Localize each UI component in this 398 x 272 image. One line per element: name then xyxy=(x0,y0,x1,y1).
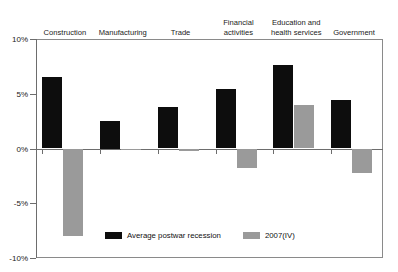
legend-label: Average postwar recession xyxy=(127,231,221,240)
y-axis-tick xyxy=(30,203,36,204)
bar xyxy=(179,149,199,151)
category-tick xyxy=(216,149,217,154)
legend-item-average-postwar-recession: Average postwar recession xyxy=(105,231,221,240)
bar xyxy=(42,77,62,148)
legend-swatch-gray xyxy=(243,232,260,239)
y-axis-tick-label: 10% xyxy=(12,35,28,44)
legend-swatch-black xyxy=(105,232,122,239)
y-axis-tick-label: -5% xyxy=(14,199,28,208)
bar xyxy=(100,121,120,148)
bar xyxy=(352,149,372,173)
bar xyxy=(331,100,351,148)
y-axis-tick xyxy=(30,94,36,95)
bar-chart: ConstructionManufacturingTradeFinancial … xyxy=(0,0,398,272)
bar xyxy=(158,107,178,149)
category-tick xyxy=(331,149,332,154)
y-axis-tick xyxy=(30,39,36,40)
legend-item-2007-iv: 2007(IV) xyxy=(243,231,295,240)
bar xyxy=(63,149,83,237)
bar xyxy=(273,65,293,148)
plot-area xyxy=(36,39,383,258)
legend-label: 2007(IV) xyxy=(265,231,295,240)
category-tick xyxy=(42,149,43,154)
y-axis-tick-label: -10% xyxy=(9,254,28,263)
category-axis-labels: ConstructionManufacturingTradeFinancial … xyxy=(36,4,383,38)
category-label: Government xyxy=(319,28,389,38)
y-axis-tick xyxy=(30,258,36,259)
bar xyxy=(216,89,236,148)
category-tick xyxy=(273,149,274,154)
y-axis-tick-label: 0% xyxy=(16,144,28,153)
bar xyxy=(121,149,141,150)
bar xyxy=(294,105,314,149)
chart-legend: Average postwar recession 2007(IV) xyxy=(105,231,295,240)
y-axis-tick xyxy=(30,149,36,150)
category-tick xyxy=(100,149,101,154)
bar xyxy=(237,149,257,169)
category-tick xyxy=(158,149,159,154)
y-axis-tick-label: 5% xyxy=(16,89,28,98)
